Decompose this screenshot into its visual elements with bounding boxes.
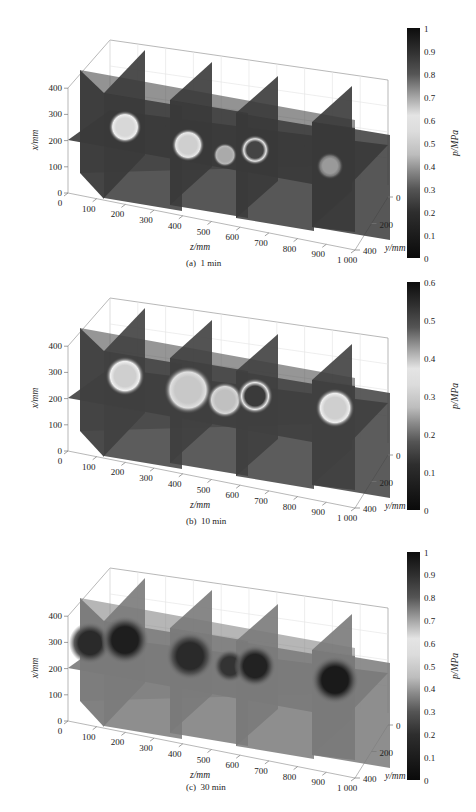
colorbar-label: p/MPa — [450, 653, 460, 680]
svg-text:100: 100 — [82, 732, 96, 742]
colorbar — [407, 282, 420, 510]
colorbar-tick: 0.4 — [424, 354, 436, 364]
colorbar-tick: 0.1 — [424, 231, 435, 241]
pressure-hotspot — [234, 645, 276, 687]
colorbar-tick: 0 — [424, 776, 429, 786]
y-axis-label: y/mm — [384, 243, 406, 253]
svg-text:300: 300 — [49, 367, 63, 377]
colorbar-tick: 0.8 — [424, 70, 436, 80]
svg-text:300: 300 — [49, 637, 63, 647]
colorbar-label: p/MPa — [450, 130, 460, 157]
colorbar-tick: 0.1 — [424, 468, 435, 478]
svg-text:0: 0 — [58, 716, 63, 726]
colorbar-tick: 0.9 — [424, 570, 436, 580]
svg-text:500: 500 — [197, 227, 211, 237]
panel-b: 0100200300400x/mm01002003004005006007008… — [0, 270, 476, 540]
colorbar — [407, 28, 420, 258]
colorbar-tick: 0.4 — [424, 162, 436, 172]
svg-text:0: 0 — [58, 456, 63, 466]
svg-text:600: 600 — [225, 490, 239, 500]
colorbar-tick: 0.2 — [424, 730, 435, 740]
colorbar-tick: 0.5 — [424, 662, 436, 672]
y-axis-label: y/mm — [384, 771, 406, 781]
colorbar-tick: 0 — [424, 506, 429, 516]
colorbar-tick: 0.3 — [424, 392, 436, 402]
svg-text:200: 200 — [380, 478, 394, 488]
svg-text:600: 600 — [225, 232, 239, 242]
svg-text:0: 0 — [396, 721, 401, 731]
pressure-hotspot — [213, 143, 237, 167]
svg-text:200: 200 — [111, 737, 125, 747]
colorbar-label: p/MPa — [450, 383, 460, 410]
svg-text:900: 900 — [312, 249, 326, 259]
panel-caption: (c) 30 min — [186, 782, 226, 792]
svg-text:200: 200 — [111, 467, 125, 477]
colorbar-tick: 0.6 — [424, 116, 436, 126]
svg-text:900: 900 — [312, 777, 326, 787]
x-axis-label: x/mm — [30, 388, 40, 410]
panel-caption: (a) 1 min — [186, 258, 222, 268]
svg-text:200: 200 — [49, 664, 63, 674]
svg-text:600: 600 — [225, 760, 239, 770]
svg-text:100: 100 — [49, 690, 63, 700]
svg-text:500: 500 — [197, 755, 211, 765]
colorbar-tick: 0.4 — [424, 684, 436, 694]
svg-text:300: 300 — [139, 473, 153, 483]
pressure-hotspot — [240, 135, 270, 165]
pressure-hotspot — [172, 129, 205, 162]
svg-text:500: 500 — [197, 485, 211, 495]
svg-text:300: 300 — [49, 109, 63, 119]
svg-text:400: 400 — [168, 479, 182, 489]
colorbar-tick: 0.5 — [424, 316, 436, 326]
colorbar-tick: 0.5 — [424, 139, 436, 149]
pressure-hotspot — [164, 366, 212, 414]
colorbar-tick: 0.3 — [424, 185, 436, 195]
colorbar-tick: 0.7 — [424, 93, 436, 103]
pressure-hotspot — [101, 616, 149, 664]
svg-text:300: 300 — [139, 215, 153, 225]
pressure-hotspot — [316, 389, 355, 428]
svg-text:700: 700 — [254, 766, 268, 776]
svg-text:400: 400 — [168, 221, 182, 231]
svg-text:1 000: 1 000 — [337, 513, 358, 523]
svg-text:200: 200 — [380, 220, 394, 230]
svg-text:0: 0 — [396, 193, 401, 203]
x-axis-ticks: 0100200300400 — [49, 341, 69, 456]
x-axis-ticks: 0100200300400 — [49, 611, 69, 726]
svg-text:1 000: 1 000 — [337, 255, 358, 265]
colorbar-tick: 0.8 — [424, 593, 436, 603]
plot-3d-b: 0100200300400x/mm01002003004005006007008… — [0, 270, 476, 540]
pressure-hotspot — [106, 357, 145, 396]
svg-text:0: 0 — [58, 726, 63, 736]
svg-text:100: 100 — [82, 462, 96, 472]
svg-text:100: 100 — [82, 204, 96, 214]
svg-text:0: 0 — [396, 451, 401, 461]
colorbar-tick: 1 — [424, 24, 429, 34]
svg-text:400: 400 — [168, 749, 182, 759]
z-axis-label: z/mm — [189, 770, 210, 780]
colorbar-tick: 0.2 — [424, 430, 435, 440]
svg-text:200: 200 — [49, 136, 63, 146]
x-axis-ticks: 0100200300400 — [49, 83, 69, 198]
colorbar-tick: 0.6 — [424, 278, 436, 288]
panel-c: 0100200300400x/mm01002003004005006007008… — [0, 540, 476, 812]
panel-a: 0100200300400x/mm01002003004005006007008… — [0, 0, 476, 270]
z-axis-label: z/mm — [189, 242, 210, 252]
colorbar-tick: 0 — [424, 254, 429, 264]
plot-3d-a: 0100200300400x/mm01002003004005006007008… — [0, 0, 476, 270]
svg-text:400: 400 — [49, 83, 63, 93]
svg-text:700: 700 — [254, 496, 268, 506]
colorbar-tick: 0.9 — [424, 47, 436, 57]
colorbar-tick: 0.6 — [424, 639, 436, 649]
colorbar-tick: 0.1 — [424, 753, 435, 763]
svg-text:400: 400 — [49, 611, 63, 621]
panel-caption: (b) 10 min — [186, 516, 227, 526]
colorbar — [407, 552, 420, 780]
svg-text:1 000: 1 000 — [337, 783, 358, 793]
svg-text:400: 400 — [363, 774, 377, 784]
svg-text:700: 700 — [254, 238, 268, 248]
svg-text:200: 200 — [111, 209, 125, 219]
svg-text:0: 0 — [58, 188, 63, 198]
svg-text:0: 0 — [58, 198, 63, 208]
pressure-hotspot — [237, 378, 273, 414]
